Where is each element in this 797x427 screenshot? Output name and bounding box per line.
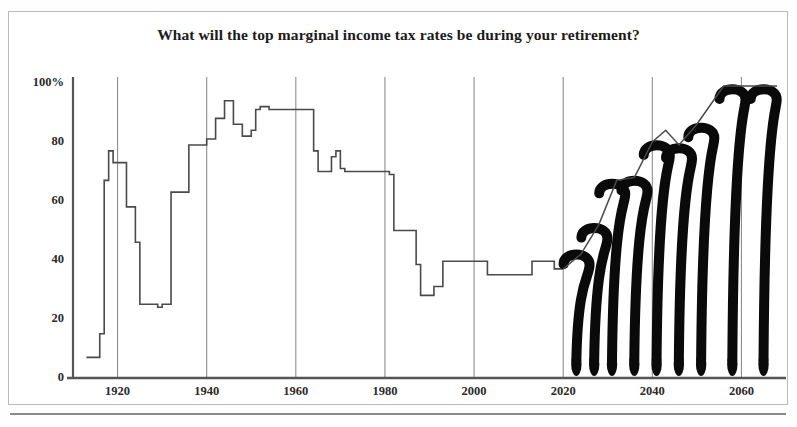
question-mark-dot bbox=[571, 352, 581, 376]
x-axis-tick-label: 2040 bbox=[622, 384, 682, 399]
y-axis-tick-label: 20 bbox=[18, 311, 64, 326]
question-mark-dot bbox=[651, 352, 661, 376]
x-axis-tick-label: 1980 bbox=[355, 384, 415, 399]
question-mark-dot bbox=[696, 352, 706, 376]
question-mark-dot bbox=[607, 352, 617, 376]
question-mark-dot bbox=[589, 352, 599, 376]
x-axis-tick-label: 1960 bbox=[266, 384, 326, 399]
future-question-marks-group bbox=[564, 89, 777, 376]
y-axis-tick-label: 60 bbox=[18, 193, 64, 208]
y-axis-tick-label: 40 bbox=[18, 252, 64, 267]
question-mark-dot bbox=[758, 352, 768, 376]
historical-tax-rate-line bbox=[86, 101, 563, 358]
question-mark-stroke bbox=[644, 145, 670, 360]
question-mark-stroke bbox=[564, 254, 590, 360]
question-mark-dot bbox=[629, 352, 639, 376]
x-axis-tick-label: 2020 bbox=[533, 384, 593, 399]
chart-page: What will the top marginal income tax ra… bbox=[0, 0, 797, 427]
question-mark-stroke bbox=[751, 89, 777, 360]
x-axis-tick-label: 1920 bbox=[88, 384, 148, 399]
x-axis-tick-label: 2060 bbox=[711, 384, 771, 399]
question-mark-dot bbox=[674, 352, 684, 376]
x-axis-tick-label: 1940 bbox=[177, 384, 237, 399]
y-axis-tick-label: 100% bbox=[18, 75, 64, 90]
question-mark-dot bbox=[727, 352, 737, 376]
chart-plot-area bbox=[0, 0, 797, 427]
y-axis-tick-label: 80 bbox=[18, 134, 64, 149]
x-axis-tick-label: 2000 bbox=[444, 384, 504, 399]
y-axis-tick-label: 0 bbox=[18, 370, 64, 385]
page-bottom-rule bbox=[10, 413, 786, 415]
